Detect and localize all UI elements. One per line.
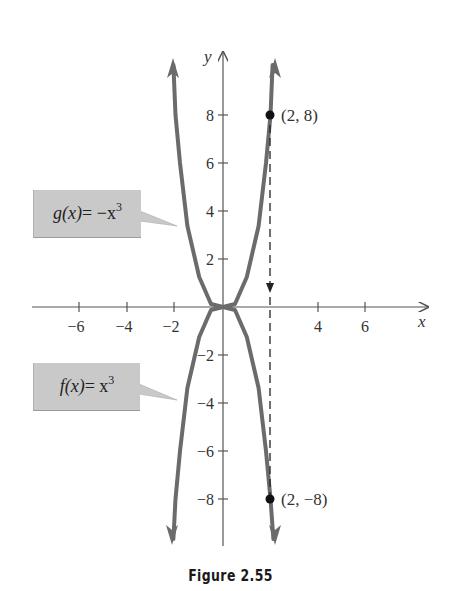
y-tick-label: −6: [197, 443, 214, 460]
x-tick-label: −2: [162, 318, 179, 335]
y-tick-label: −2: [197, 347, 214, 364]
point-2-8: [266, 111, 275, 120]
y-tick-label: 8: [206, 107, 214, 124]
x-tick-label: −6: [67, 318, 84, 335]
callout-f: f(x) = x3: [33, 363, 140, 411]
y-tick-label: 4: [206, 203, 214, 220]
callout-f-exp: 3: [108, 373, 114, 388]
y-axis-label: y: [202, 47, 212, 66]
point-label-upper: (2, 8): [281, 106, 318, 125]
callout-pointer-g: [140, 211, 177, 226]
graph-canvas: x y −6 −4 −2 4 6 8 6 4 2 −2 −4 −6 −8: [0, 0, 461, 591]
y-tick-label: 2: [206, 251, 214, 268]
y-tick-label: 6: [206, 155, 214, 172]
point-label-lower: (2, −8): [281, 490, 327, 509]
point-2-neg8: [266, 495, 275, 504]
callout-g-name: g(x): [53, 203, 82, 224]
figure-caption: Figure 2.55: [51, 566, 411, 585]
callout-f-name: f(x): [60, 376, 85, 397]
y-tick-label: −8: [197, 491, 214, 508]
x-tick-label: 4: [314, 318, 322, 335]
callout-g: g(x) = −x3: [33, 190, 141, 238]
dashed-arrowhead-icon: [266, 283, 274, 293]
callout-g-eq: = −x: [82, 203, 116, 224]
x-tick-label: 6: [361, 318, 369, 335]
arrow-down-right-icon: [269, 525, 281, 545]
x-tick-labels: −6 −4 −2 4 6: [67, 318, 369, 335]
y-tick-label: −4: [197, 395, 214, 412]
callout-f-eq: = x: [85, 376, 109, 397]
x-axis-label: x: [417, 312, 426, 331]
callout-g-exp: 3: [116, 200, 122, 215]
callout-pointer-f: [139, 384, 177, 400]
x-tick-label: −4: [115, 318, 132, 335]
